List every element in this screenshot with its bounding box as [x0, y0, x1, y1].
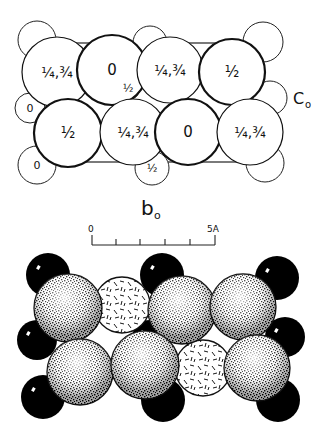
stippled-atom	[34, 274, 102, 342]
stippled-atom	[47, 339, 113, 405]
axis-label-c-subscript: o	[305, 99, 311, 110]
hatched-atom	[175, 340, 231, 396]
atom-height-label: ¼,¾	[117, 124, 149, 140]
stippled-atom	[210, 274, 276, 340]
top-projection-diagram: 00½½¼,¾0¼,¾½½¼,¾0¼,¾½	[15, 21, 287, 185]
scale-end-label: 5A	[207, 224, 220, 234]
axis-label-c: C	[293, 89, 304, 108]
scale-start-label: 0	[88, 224, 94, 234]
atom-height-label: ¼,¾	[154, 62, 186, 78]
scale-bar	[92, 235, 215, 245]
atom-height-label: ½	[61, 124, 76, 142]
stippled-atom	[111, 331, 179, 399]
atom-height-label: 0	[107, 61, 117, 79]
crystal-structure-figure: 00½½¼,¾0¼,¾½½¼,¾0¼,¾½ C o b o 0 5A	[0, 0, 324, 440]
atom-height-label: 0	[34, 159, 41, 172]
large-atom: 0	[155, 99, 221, 165]
stippled-atom	[224, 335, 290, 401]
large-atom: ½	[199, 39, 265, 105]
atom-height-label: 0	[183, 123, 193, 141]
atom-height-label: ¼,¾	[41, 64, 73, 80]
large-atom: ¼,¾	[217, 99, 283, 165]
atom-height-label: ½	[147, 162, 158, 175]
atom-height-label: 0	[27, 102, 34, 115]
atom-height-label: ½	[123, 82, 134, 95]
atom-height-label: ½	[225, 63, 240, 81]
large-atom: ¼,¾	[137, 37, 203, 103]
axis-label-b-subscript: o	[154, 209, 161, 222]
axis-label-b: b	[141, 196, 154, 220]
bottom-space-filling-diagram	[17, 253, 305, 422]
large-atom: ½	[34, 99, 102, 167]
atom-height-label: ¼,¾	[234, 124, 266, 140]
